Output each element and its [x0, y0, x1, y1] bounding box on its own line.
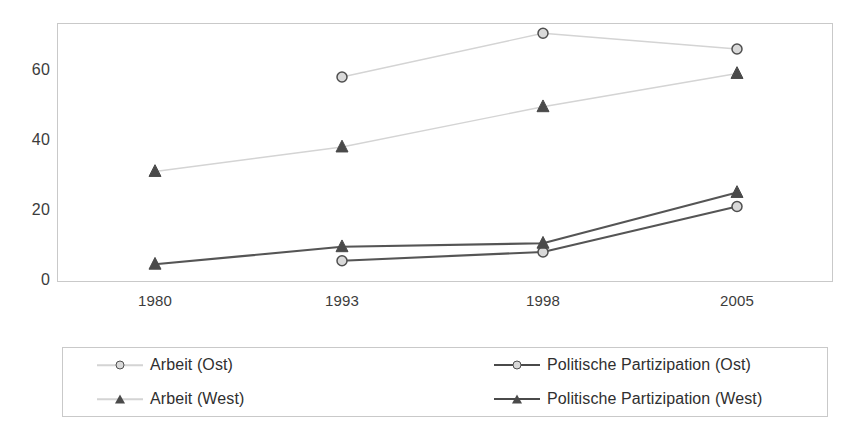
legend-grid: Arbeit (Ost)Politische Partizipation (Os…: [63, 348, 827, 416]
legend-box: Arbeit (Ost)Politische Partizipation (Os…: [62, 347, 828, 417]
legend-sample-circle-icon: [494, 357, 540, 373]
legend-label: Politische Partizipation (West): [547, 390, 762, 408]
y-tick-label: 0: [10, 271, 50, 289]
legend-label: Arbeit (West): [150, 390, 244, 408]
legend-item[interactable]: Arbeit (West): [63, 390, 458, 408]
legend-sample-circle-icon: [97, 357, 143, 373]
y-tick-label: 60: [10, 61, 50, 79]
legend-item[interactable]: Arbeit (Ost): [63, 356, 458, 374]
legend-sample-triangle-icon: [494, 391, 540, 407]
legend-circle-icon: [116, 361, 125, 370]
legend-circle-icon: [513, 361, 522, 370]
y-axis-tick-labels: 0204060: [5, 0, 50, 443]
x-tick-label: 1980: [138, 292, 172, 309]
legend-triangle-icon: [115, 395, 125, 404]
y-tick-label: 40: [10, 131, 50, 149]
y-tick-label: 20: [10, 201, 50, 219]
legend-sample-triangle-icon: [97, 391, 143, 407]
legend-label: Arbeit (Ost): [150, 356, 233, 374]
legend-label: Politische Partizipation (Ost): [547, 356, 751, 374]
legend-item[interactable]: Politische Partizipation (Ost): [458, 356, 827, 374]
x-tick-label: 1998: [526, 292, 560, 309]
line-chart-figure: 0204060 1980199319982005 Arbeit (Ost)Pol…: [0, 0, 860, 443]
x-tick-label: 1993: [325, 292, 359, 309]
x-tick-label: 2005: [720, 292, 754, 309]
legend-triangle-icon: [512, 395, 522, 404]
legend-item[interactable]: Politische Partizipation (West): [458, 390, 827, 408]
plot-area-frame: [57, 23, 833, 282]
